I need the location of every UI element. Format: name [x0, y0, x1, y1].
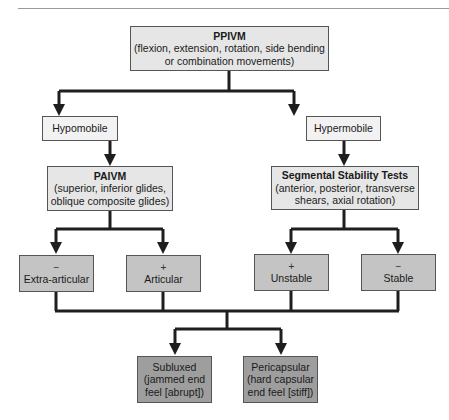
segmental-stability-desc-line1: (anterior, posterior, transverse	[275, 182, 414, 195]
segmental-stability-title: Segmental Stability Tests	[282, 169, 408, 182]
ppivm-title: PPIVM	[213, 30, 246, 43]
subluxed-line2: (jammed end	[144, 373, 205, 386]
hypermobile-label: Hypermobile	[314, 122, 373, 135]
positive-sign: +	[289, 261, 295, 272]
ppivm-box: PPIVM (flexion, extension, rotation, sid…	[130, 26, 329, 71]
stable-label: Stable	[384, 272, 414, 285]
paivm-box: PAIVM (superior, inferior glides, obliqu…	[47, 166, 173, 211]
segmental-stability-box: Segmental Stability Tests (anterior, pos…	[271, 166, 419, 210]
ppivm-desc-line2: or combination movements)	[165, 55, 295, 68]
subluxed-box: Subluxed (jammed end feel [abrupt])	[137, 356, 212, 403]
hypermobile-box: Hypermobile	[306, 116, 381, 141]
positive-sign: +	[161, 262, 167, 273]
pericapsular-line1: Pericapsular	[251, 361, 309, 374]
subluxed-line3: feel [abrupt])	[145, 386, 204, 399]
negative-sign: −	[54, 262, 60, 273]
extra-articular-label: Extra-articular	[24, 273, 89, 286]
hypomobile-box: Hypomobile	[42, 116, 118, 141]
pericapsular-box: Pericapsular (hard capsular end feel [st…	[243, 356, 318, 403]
pericapsular-line3: end feel [stiff])	[248, 386, 314, 399]
paivm-title: PAIVM	[94, 170, 126, 183]
segmental-stability-desc-line2: shears, axial rotation)	[295, 194, 395, 207]
pericapsular-line2: (hard capsular	[247, 373, 314, 386]
articular-label: Articular	[144, 273, 183, 286]
paivm-desc-line2: oblique composite glides)	[51, 195, 169, 208]
extra-articular-box: − Extra-articular	[19, 255, 94, 292]
ppivm-desc-line1: (flexion, extension, rotation, side bend…	[134, 42, 325, 55]
unstable-box: + Unstable	[254, 254, 329, 291]
negative-sign: −	[396, 261, 402, 272]
articular-box: + Articular	[126, 255, 201, 292]
hypomobile-label: Hypomobile	[52, 122, 107, 135]
subluxed-line1: Subluxed	[153, 361, 197, 374]
stable-box: − Stable	[361, 254, 436, 291]
paivm-desc-line1: (superior, inferior glides,	[54, 182, 166, 195]
unstable-label: Unstable	[271, 272, 312, 285]
